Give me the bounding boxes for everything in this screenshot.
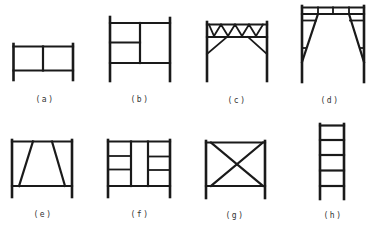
label-c: (c) [228, 96, 247, 105]
frame-f [108, 140, 170, 197]
frame-a [14, 44, 74, 80]
label-a: (a) [36, 95, 55, 104]
frame-d [302, 6, 364, 82]
label-f: (f) [131, 210, 150, 219]
frame-h [320, 124, 344, 199]
frame-c [207, 22, 267, 81]
frame-e [12, 140, 72, 197]
label-e: (e) [34, 210, 53, 219]
label-g: (g) [226, 211, 245, 220]
label-h: (h) [324, 211, 343, 220]
scaffold-frame-diagram: (a) (b) (c) (d) [0, 0, 368, 229]
frame-b [110, 17, 170, 81]
frame-g [206, 141, 265, 198]
label-d: (d) [321, 96, 340, 105]
label-b: (b) [131, 95, 150, 104]
